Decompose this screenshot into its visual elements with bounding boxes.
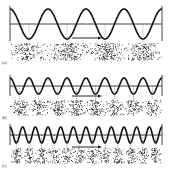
panel-c-particle-band (11, 148, 162, 164)
panel-b-arrow-head-icon (98, 94, 102, 97)
sound-wave-diagram: (a)(b)(c) (0, 0, 171, 178)
panel-a-label: (a) (2, 60, 8, 65)
panel-b-label: (b) (2, 115, 8, 120)
panel-c-label: (c) (2, 163, 7, 168)
panel-a-particle-band (11, 43, 162, 61)
panel-c-arrow-head-icon (98, 145, 102, 148)
panel-b-particle-band (10, 100, 162, 116)
